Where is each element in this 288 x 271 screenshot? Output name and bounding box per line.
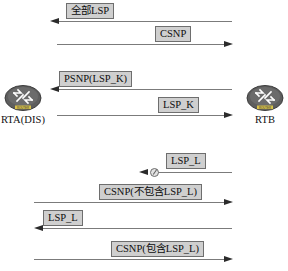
svg-text:ROUTER: ROUTER: [259, 106, 271, 110]
arrow-head-left-icon: [139, 169, 148, 175]
message-line: [57, 21, 232, 22]
message-line: [34, 259, 227, 260]
message-line: [34, 202, 227, 203]
node-rta-label: RTA(DIS): [0, 114, 51, 126]
arrow-head-left-icon: [34, 225, 43, 231]
node-rtb-label: RTB: [237, 114, 288, 126]
message-line: [41, 228, 232, 229]
router-icon: ROUTER: [246, 85, 284, 113]
message-label-2[interactable]: CSNP: [155, 26, 191, 42]
node-rta[interactable]: ROUTER RTA(DIS): [0, 85, 51, 126]
message-label-4[interactable]: LSP_K: [158, 97, 199, 113]
message-line: [57, 89, 232, 90]
packet-drop-icon: [150, 168, 159, 177]
arrow-head-right-icon: [224, 256, 233, 262]
message-label-3[interactable]: PSNP(LSP_K): [59, 71, 132, 87]
message-line: [57, 44, 227, 45]
message-line: [57, 115, 227, 116]
arrow-head-right-icon: [224, 41, 233, 47]
message-label-7[interactable]: LSP_L: [43, 210, 83, 226]
arrow-head-right-icon: [224, 199, 233, 205]
arrow-head-left-icon: [50, 18, 59, 24]
message-label-5[interactable]: LSP_L: [166, 153, 206, 169]
message-label-6[interactable]: CSNP(不包含LSP_L): [99, 184, 202, 200]
arrow-head-left-icon: [50, 86, 59, 92]
node-rtb[interactable]: ROUTER RTB: [237, 85, 288, 126]
message-label-8[interactable]: CSNP(包含LSP_L): [111, 241, 204, 257]
message-line: [152, 172, 232, 173]
router-icon: ROUTER: [4, 85, 42, 113]
arrow-head-right-icon: [224, 112, 233, 118]
sequence-diagram: ROUTER RTA(DIS) ROUTER RTB: [0, 0, 288, 271]
message-label-1[interactable]: 全部LSP: [66, 3, 114, 19]
svg-text:ROUTER: ROUTER: [17, 106, 29, 110]
